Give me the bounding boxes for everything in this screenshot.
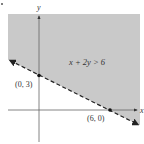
point-label-6-0: (6, 0) [87,114,105,123]
point-0-3 [37,74,41,78]
point-label-0-3: (0, 3) [15,80,33,89]
x-axis-label: x [139,106,144,115]
inequality-graph: y x x + 2y > 6 (0, 3) (6, 0) [0,0,144,144]
inequality-label: x + 2y > 6 [68,57,106,67]
y-axis-label: y [36,3,41,12]
corner-dot [1,3,3,5]
point-6-0 [108,108,112,112]
